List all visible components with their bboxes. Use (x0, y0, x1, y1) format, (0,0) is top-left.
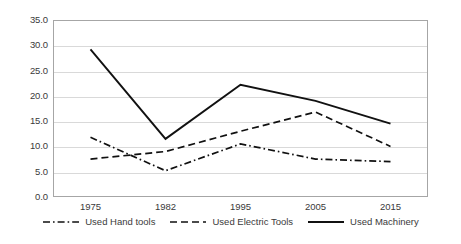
legend-line-swatch (42, 217, 80, 227)
legend-line-swatch (169, 217, 207, 227)
series-layer (53, 20, 428, 197)
y-axis-tick-label: 15.0 (4, 115, 48, 126)
legend-item[interactable]: Used Machinery (307, 216, 419, 227)
y-axis-tick-label: 25.0 (4, 65, 48, 76)
x-axis-tick-label: 2005 (281, 201, 351, 212)
line-chart: 0.05.010.015.020.025.030.035.0 197519821… (0, 0, 461, 244)
x-axis-tick-label: 1975 (56, 201, 126, 212)
y-axis-tick-label: 35.0 (4, 14, 48, 25)
x-axis-tick-label: 2015 (356, 201, 426, 212)
legend-label: Used Machinery (350, 216, 419, 227)
legend-item[interactable]: Used Hand tools (42, 216, 155, 227)
y-axis-tick-label: 30.0 (4, 39, 48, 50)
x-axis-tick-label: 1995 (206, 201, 276, 212)
legend-item[interactable]: Used Electric Tools (169, 216, 293, 227)
legend-line-swatch (307, 217, 345, 227)
y-axis-tick-label: 5.0 (4, 166, 48, 177)
y-axis-tick-label: 10.0 (4, 140, 48, 151)
legend-label: Used Hand tools (85, 216, 155, 227)
series-line-used-electric-tools (91, 112, 391, 159)
series-line-used-machinery (91, 49, 391, 139)
x-axis-tick-label: 1982 (131, 201, 201, 212)
legend-label: Used Electric Tools (212, 216, 293, 227)
chart-legend: Used Hand toolsUsed Electric ToolsUsed M… (0, 216, 461, 227)
y-axis-tick-label: 0.0 (4, 191, 48, 202)
y-axis-tick-label: 20.0 (4, 90, 48, 101)
